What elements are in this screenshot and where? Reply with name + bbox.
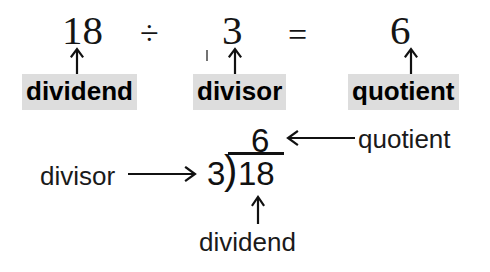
callout-label-divisor: divisor [40, 163, 115, 189]
label-divisor: divisor [193, 74, 286, 110]
equation-quotient-value: 6 [390, 10, 411, 51]
equation-dividend-value: 18 [62, 10, 103, 51]
label-quotient: quotient [348, 74, 459, 110]
arrow-up-icon-quotient [404, 46, 418, 74]
callout-label-quotient: quotient [358, 126, 451, 152]
long-division-dividend: 18 [238, 157, 275, 190]
scan-artifact-mark [206, 50, 208, 61]
division-diagram: 18 ÷ 3 = 6 dividend divisor quotient 6 3… [0, 0, 490, 272]
callout-label-dividend: dividend [199, 229, 296, 255]
arrow-up-icon-divisor [228, 46, 242, 74]
arrow-left-icon-quotient [283, 129, 355, 147]
arrow-right-icon-divisor [128, 165, 198, 183]
divide-operator: ÷ [140, 16, 159, 50]
arrow-up-icon-long-division-dividend [251, 194, 265, 224]
long-division-bracket: ) [224, 150, 237, 190]
equation-divisor-value: 3 [222, 10, 243, 51]
equals-operator: = [288, 18, 307, 52]
long-division-divisor: 3 [207, 157, 225, 190]
label-dividend: dividend [22, 74, 137, 110]
arrow-up-icon-dividend [70, 46, 84, 74]
